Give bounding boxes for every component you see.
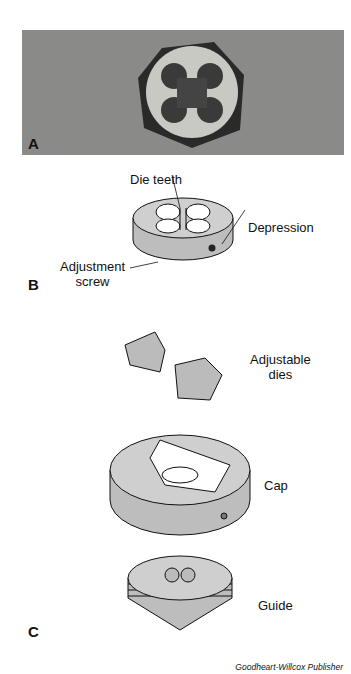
label-adjustable-dies: Adjustable dies xyxy=(250,352,311,382)
label-adjustment-screw: Adjustment screw xyxy=(60,259,125,289)
publisher-credit: Goodheart-Willcox Publisher xyxy=(235,662,343,672)
panel-letter-c: C xyxy=(28,623,39,640)
label-depression: Depression xyxy=(248,220,314,235)
panel-letter-b: B xyxy=(28,276,39,293)
label-cap: Cap xyxy=(264,478,288,493)
panel-letter-a: A xyxy=(28,135,39,152)
hex-die-illustration xyxy=(22,30,344,155)
label-guide: Guide xyxy=(258,598,293,613)
die-photo xyxy=(22,30,344,155)
label-die-teeth: Die teeth xyxy=(130,172,182,187)
